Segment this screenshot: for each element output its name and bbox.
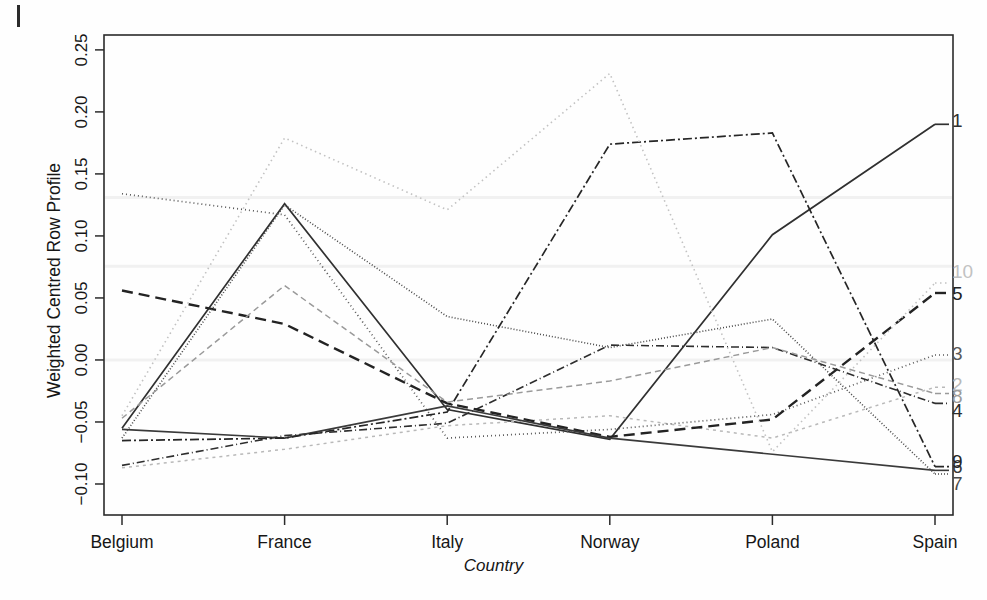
- y-tick-label: 0.15: [72, 144, 92, 204]
- series-label-9: 9: [952, 451, 963, 473]
- series-label-7: 7: [952, 473, 963, 495]
- x-tick-label: Italy: [431, 532, 463, 553]
- y-tick-label: 0.20: [72, 82, 92, 142]
- y-tick-label: 0.10: [72, 206, 92, 266]
- y-tick-label: 0.05: [72, 268, 92, 328]
- series-label-5: 5: [952, 283, 963, 305]
- series-label-3: 3: [952, 343, 963, 365]
- x-tick-label: France: [257, 532, 311, 553]
- x-tick-label: Belgium: [90, 532, 153, 553]
- y-tick-label: −0.10: [72, 454, 92, 514]
- series-label-4: 4: [952, 400, 963, 422]
- x-tick-label: Spain: [913, 532, 958, 553]
- y-tick-label: −0.05: [72, 392, 92, 452]
- y-tick-label: 0.00: [72, 330, 92, 390]
- x-tick-label: Poland: [745, 532, 800, 553]
- chart-page: Weighted Centred Row Profile Country −0.…: [0, 0, 987, 600]
- x-tick-label: Norway: [580, 532, 639, 553]
- series-label-10: 10: [952, 261, 973, 283]
- y-tick-label: 0.25: [72, 20, 92, 80]
- series-label-1: 1: [952, 110, 963, 132]
- line-chart-canvas: [0, 0, 987, 600]
